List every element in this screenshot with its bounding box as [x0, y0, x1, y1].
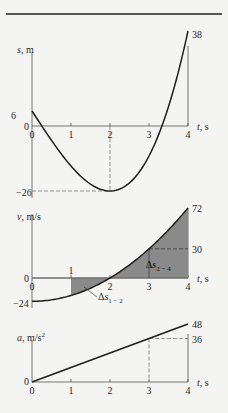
a-line: [32, 324, 188, 382]
y-tick-30: 30: [192, 244, 202, 255]
x-tick-label-4: 4: [186, 129, 191, 140]
x-tick-label-0: 0: [30, 129, 35, 140]
delta-s-1-2-label: Δs1 − 2: [98, 291, 123, 305]
s-curve: [32, 31, 188, 191]
t-axis-label: t, s: [197, 121, 209, 132]
y-tick-38: 38: [192, 29, 202, 40]
y-axis-label: s, m: [17, 44, 34, 55]
x-tick-label-3: 3: [147, 129, 152, 140]
v-t-graph: v, m/st, s0234107230−24Δs1 − 2Δs2 − 4: [13, 203, 209, 309]
x-tick-label-0: 0: [30, 385, 35, 396]
tick-label-1: 1: [69, 265, 74, 276]
y-tick-6: 6: [11, 110, 16, 121]
x-tick-label-1: 1: [69, 129, 74, 140]
y-tick-72: 72: [192, 203, 202, 214]
x-tick-label-3: 3: [147, 385, 152, 396]
x-tick-label-3: 3: [147, 281, 152, 292]
a-t-graph: a, m/s2t, s0123404836: [17, 319, 209, 396]
kinematics-figure: s, mt, s012346038−26 v, m/st, s023410723…: [0, 0, 228, 413]
t-axis-label: t, s: [197, 273, 209, 284]
y-tick-36: 36: [192, 334, 202, 345]
x-tick-label-4: 4: [186, 385, 191, 396]
y-tick-0: 0: [24, 121, 29, 132]
y-tick-0: 0: [24, 376, 29, 387]
x-tick-label-2: 2: [108, 385, 113, 396]
s-t-graph: s, mt, s012346038−26: [11, 29, 209, 198]
x-tick-label-1: 1: [69, 385, 74, 396]
shaded-area: [71, 208, 188, 296]
x-tick-label-0: 0: [30, 281, 35, 292]
y-tick-neg24: −24: [13, 298, 29, 309]
y-tick-0: 0: [24, 273, 29, 284]
x-tick-label-4: 4: [186, 281, 191, 292]
y-tick-neg26: −26: [16, 187, 32, 198]
y-axis-label: a, m/s2: [17, 331, 45, 343]
y-axis-label: v, m/s: [17, 211, 41, 222]
t-axis-label: t, s: [197, 377, 209, 388]
y-tick-48: 48: [192, 319, 202, 330]
